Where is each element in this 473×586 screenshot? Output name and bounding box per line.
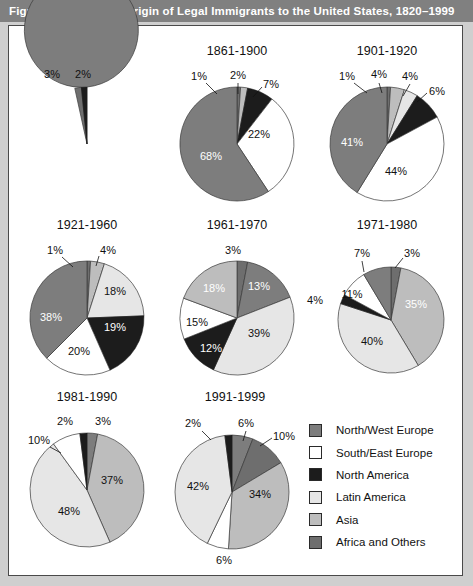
pct-label-3-6: 41% bbox=[341, 136, 363, 148]
legend-item-asia: Asia bbox=[309, 509, 469, 531]
legend-swatch-north-west-europe bbox=[309, 424, 322, 437]
pie-3-svg-wrap: 1% 4% 4% 6% 44% 41% bbox=[317, 80, 457, 204]
pie-5-svg-wrap: 3% 13% 39% 12% 15% 18% bbox=[167, 254, 307, 378]
pie-5-svg: 3% 13% 39% 12% 15% 18% bbox=[167, 254, 307, 378]
legend-label-latin-america: Latin America bbox=[336, 491, 406, 503]
pct-label-4-2: 4% bbox=[100, 244, 116, 256]
pie-1-svg: 3% 2% bbox=[17, 80, 157, 204]
pct-label-6-4: 40% bbox=[361, 335, 383, 347]
pct-label-6-5: 4% bbox=[307, 294, 323, 306]
pct-label-5-1: 3% bbox=[225, 244, 241, 256]
pie-chart-1991-1999: 1991-1999 2% 6% 10% 34% bbox=[155, 390, 315, 565]
pct-label-4-1: 1% bbox=[47, 244, 63, 256]
chart-title-2: 1861-1900 bbox=[161, 44, 313, 58]
legend-swatch-south-east-europe bbox=[309, 446, 322, 459]
pie-chart-1820-1860: 1820-1860 3% 2% bbox=[11, 44, 163, 204]
legend-label-asia: Asia bbox=[336, 514, 358, 526]
chart-title-6: 1971-1980 bbox=[311, 218, 463, 232]
pie-2-svg-wrap: 1% 2% 7% 22% 68% bbox=[167, 80, 307, 204]
legend-item-latin-america: Latin America bbox=[309, 486, 469, 508]
pct-label-8-1: 2% bbox=[185, 417, 201, 429]
pct-label-2-3: 7% bbox=[263, 78, 279, 90]
pct-label-5-3: 39% bbox=[248, 327, 270, 339]
pct-label-7-5: 48% bbox=[58, 505, 80, 517]
legend-swatch-africa-and-others bbox=[309, 536, 322, 549]
legend-item-south-east-europe: South/East Europe bbox=[309, 441, 469, 463]
pct-label-6-6: 11% bbox=[341, 288, 362, 300]
pie-1-svg-wrap: 3% 2% bbox=[17, 80, 157, 204]
pct-label-7-4: 37% bbox=[101, 474, 123, 486]
pct-label-6-2: 3% bbox=[404, 247, 420, 259]
pct-label-4-5: 20% bbox=[68, 345, 90, 357]
chart-title-8: 1991-1999 bbox=[155, 390, 315, 404]
pct-label-2-1: 1% bbox=[191, 70, 207, 82]
pie-8-svg: 2% 6% 10% 34% 6% 42% bbox=[160, 426, 310, 568]
pie-chart-1921-1960: 1921-1960 1% 4% 18% 19% bbox=[11, 218, 163, 383]
pct-label-5-4: 12% bbox=[200, 342, 222, 354]
pct-label-7-1: 2% bbox=[57, 415, 73, 427]
pie-7-svg: 2% 3% 10% 37% 48% bbox=[17, 426, 157, 550]
pct-label-6-3: 35% bbox=[405, 298, 427, 310]
pie-7-svg-wrap: 2% 3% 10% 37% 48% bbox=[17, 426, 157, 550]
pct-label-1-2: 2% bbox=[75, 68, 91, 80]
legend-label-north-america: North America bbox=[336, 469, 409, 481]
leader-3-1 bbox=[354, 83, 367, 93]
pct-label-8-5: 6% bbox=[216, 554, 232, 566]
pct-label-4-3: 18% bbox=[104, 285, 126, 297]
chart-title-4: 1921-1960 bbox=[11, 218, 163, 232]
pct-label-3-4: 6% bbox=[429, 85, 445, 97]
legend-item-north-america: North America bbox=[309, 464, 469, 486]
chart-legend: North/West Europe South/East Europe Nort… bbox=[309, 419, 469, 553]
legend-item-africa-and-others: Africa and Others bbox=[309, 531, 469, 553]
pie-2-svg: 1% 2% 7% 22% 68% bbox=[167, 80, 307, 204]
pct-label-5-6: 18% bbox=[203, 282, 225, 294]
pct-label-8-2: 6% bbox=[238, 417, 254, 429]
pie-chart-1901-1920: 1901-1920 1% 4% 4% 6% bbox=[311, 44, 463, 204]
legend-swatch-latin-america bbox=[309, 491, 322, 504]
pie-chart-1971-1980: 1971-1980 7% 3% 35% 40% bbox=[311, 218, 463, 383]
pct-label-3-1: 1% bbox=[339, 70, 355, 82]
pie-3-svg: 1% 4% 4% 6% 44% 41% bbox=[317, 80, 457, 204]
pct-label-8-6: 42% bbox=[187, 480, 209, 492]
legend-item-north-west-europe: North/West Europe bbox=[309, 419, 469, 441]
pie-4-svg: 1% 4% 18% 19% 20% 38% bbox=[17, 254, 157, 378]
pct-label-2-5: 68% bbox=[200, 150, 222, 162]
legend-swatch-asia bbox=[309, 513, 322, 526]
pie-6-svg-wrap: 7% 3% 35% 40% 4% 11% bbox=[317, 254, 457, 378]
pct-label-6-1: 7% bbox=[354, 247, 370, 259]
pct-label-3-3: 4% bbox=[402, 70, 418, 82]
pct-label-2-2: 2% bbox=[230, 69, 246, 81]
pct-label-4-6: 38% bbox=[40, 311, 62, 323]
pie-chart-1981-1990: 1981-1990 2% 3% 10% 37% 48% bbox=[11, 390, 163, 555]
pct-label-5-2: 13% bbox=[248, 280, 270, 292]
pct-label-8-3: 10% bbox=[273, 430, 295, 442]
leader-8-1 bbox=[202, 431, 211, 440]
leader-2-1 bbox=[206, 83, 217, 94]
leader-8-3 bbox=[260, 438, 272, 446]
legend-label-north-west-europe: North/West Europe bbox=[336, 424, 434, 436]
leader-6-2 bbox=[395, 258, 403, 268]
pct-label-5-5: 15% bbox=[186, 316, 208, 328]
pct-label-7-2: 3% bbox=[95, 415, 111, 427]
pct-label-7-3: 10% bbox=[28, 434, 50, 446]
legend-swatch-north-america bbox=[309, 468, 322, 481]
pct-label-2-4: 22% bbox=[248, 128, 270, 140]
pct-label-8-4: 34% bbox=[249, 488, 271, 500]
pct-label-1-1: 3% bbox=[44, 68, 60, 80]
chart-title-3: 1901-1920 bbox=[311, 44, 463, 58]
figure-panel: 1820-1860 3% 2% 1861-1900 bbox=[8, 25, 463, 576]
leader-6-1 bbox=[362, 261, 364, 272]
legend-label-south-east-europe: South/East Europe bbox=[336, 447, 433, 459]
figure-root: Figure 6.1Place of Origin of Legal Immig… bbox=[0, 0, 473, 586]
pie-8-svg-wrap: 2% 6% 10% 34% 6% 42% bbox=[160, 426, 310, 568]
legend-label-africa-and-others: Africa and Others bbox=[336, 536, 425, 548]
pie-4-svg-wrap: 1% 4% 18% 19% 20% 38% bbox=[17, 254, 157, 378]
pct-label-3-2: 4% bbox=[371, 68, 387, 80]
chart-title-7: 1981-1990 bbox=[11, 390, 163, 404]
pie-6-svg: 7% 3% 35% 40% 4% 11% bbox=[317, 254, 457, 378]
chart-title-5: 1961-1970 bbox=[161, 218, 313, 232]
pie-chart-1861-1900: 1861-1900 1% 2% 7% 22% 68% bbox=[161, 44, 313, 204]
pct-label-4-4: 19% bbox=[104, 321, 126, 333]
pct-label-3-5: 44% bbox=[385, 165, 407, 177]
pie-chart-1961-1970: 1961-1970 3% 13% 39% 12% bbox=[161, 218, 313, 383]
